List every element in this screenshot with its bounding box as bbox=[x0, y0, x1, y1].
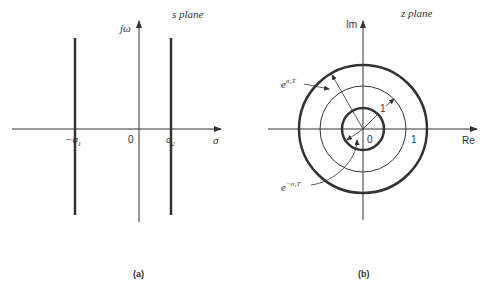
re-label: Re bbox=[462, 135, 475, 146]
z-origin-label: 0 bbox=[367, 134, 373, 145]
inner-radius-label: e−σ₁T bbox=[281, 180, 302, 193]
sigma2-label: σ2 bbox=[166, 133, 175, 148]
figure-canvas: s plane jω σ 0 −σ1 σ2 (a) z plane bbox=[0, 0, 483, 290]
im-label: Im bbox=[346, 19, 357, 30]
s-origin-label: 0 bbox=[128, 134, 134, 145]
s-plane-panel: s plane jω σ 0 −σ1 σ2 (a) bbox=[12, 8, 221, 279]
inner-radius-line bbox=[347, 129, 363, 140]
unit-radius-label: 1 bbox=[380, 103, 386, 114]
unit-radius-line bbox=[363, 113, 379, 129]
jomega-label: jω bbox=[118, 22, 131, 34]
s-plane-title: s plane bbox=[172, 8, 204, 20]
caption-a: (a) bbox=[133, 269, 144, 279]
neg-sigma1-label: −σ1 bbox=[65, 133, 81, 148]
sigma-axis-label: σ bbox=[213, 134, 219, 146]
unit-axis-label: 1 bbox=[411, 134, 417, 145]
z-plane-title: z plane bbox=[400, 7, 433, 19]
outer-radius-line bbox=[332, 75, 363, 129]
caption-b: (b) bbox=[358, 269, 370, 279]
unit-radius-arrow bbox=[386, 99, 394, 106]
outer-radius-label: eσ₂T bbox=[281, 77, 297, 90]
z-plane-panel: z plane Im Re 0 1 1 eσ₂T e−σ₁T (b) bbox=[268, 7, 477, 279]
